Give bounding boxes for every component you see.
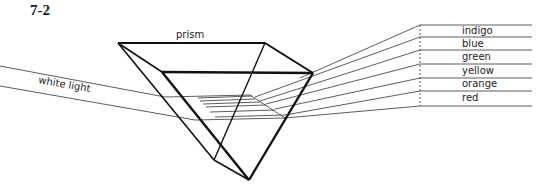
spectrum-label-orange: orange bbox=[462, 78, 497, 89]
prism-label: prism bbox=[176, 29, 204, 40]
spectrum-rays bbox=[255, 25, 420, 118]
spectrum-label-green: green bbox=[462, 51, 491, 62]
prism-diagram: prism white light indigo blue green yell… bbox=[0, 0, 556, 193]
spectrum-label-yellow: yellow bbox=[462, 65, 494, 76]
spectrum-label-indigo: indigo bbox=[462, 25, 493, 36]
spectrum-label-blue: blue bbox=[462, 38, 484, 49]
white-light-label: white light bbox=[38, 74, 92, 94]
spectrum-label-red: red bbox=[462, 92, 478, 103]
